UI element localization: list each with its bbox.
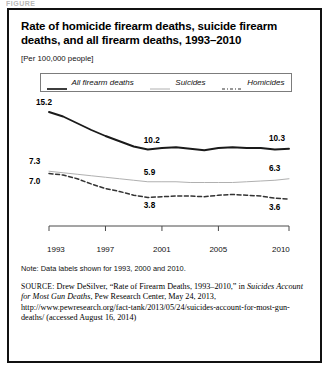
data-label-all-firearm-deaths-2010: 10.3 bbox=[269, 134, 285, 143]
x-tick-label-2005: 2005 bbox=[209, 245, 227, 254]
chart-title: Rate of homicide firearm deaths, suicide… bbox=[21, 19, 310, 47]
legend-item-all-firearm-deaths: All firearm deaths bbox=[47, 78, 134, 87]
chart-legend: All firearm deaths Suicides Homicides bbox=[40, 73, 292, 92]
x-tick-label-1997: 1997 bbox=[96, 245, 114, 254]
figure-frame: Rate of homicide firearm deaths, suicide… bbox=[7, 8, 322, 363]
chart-series-group bbox=[49, 112, 289, 199]
legend-swatch-homicides bbox=[222, 79, 242, 87]
chart-plot-area: 15.210.210.37.35.96.37.03.83.6 bbox=[21, 98, 311, 244]
chart-note: Note: Data labels shown for 1993, 2000 a… bbox=[21, 264, 310, 273]
series-line-homicides bbox=[49, 174, 289, 200]
data-label-all-firearm-deaths-1993: 15.2 bbox=[36, 98, 52, 107]
x-tick-label-2010: 2010 bbox=[272, 245, 290, 254]
series-line-all-firearm-deaths bbox=[49, 112, 289, 150]
legend-label-all-firearm-deaths: All firearm deaths bbox=[72, 78, 134, 87]
data-label-suicides-2010: 6.3 bbox=[269, 164, 280, 173]
data-label-suicides-2000: 5.9 bbox=[144, 168, 155, 177]
chart-source: SOURCE: Drew DeSilver, “Rate of Firearm … bbox=[21, 282, 310, 324]
data-label-homicides-2000: 3.8 bbox=[144, 201, 155, 210]
chart-x-axis bbox=[49, 226, 289, 231]
chart-subtitle: [Per 100,000 people] bbox=[21, 54, 310, 63]
source-prefix: SOURCE: bbox=[21, 282, 54, 291]
legend-item-homicides: Homicides bbox=[222, 78, 284, 87]
series-line-suicides bbox=[49, 171, 289, 182]
legend-item-suicides: Suicides bbox=[150, 78, 205, 87]
legend-swatch-suicides bbox=[150, 79, 170, 87]
figure-content: Rate of homicide firearm deaths, suicide… bbox=[9, 10, 320, 361]
legend-label-suicides: Suicides bbox=[175, 78, 205, 87]
legend-label-homicides: Homicides bbox=[247, 78, 284, 87]
chart-x-axis-labels: 19931997200120052010 bbox=[21, 245, 311, 257]
figure-caption-clipped: FIGURE bbox=[6, 0, 35, 8]
legend-swatch-all-firearm-deaths bbox=[47, 79, 67, 87]
data-label-homicides-1993: 7.0 bbox=[29, 177, 40, 186]
x-tick-label-1993: 1993 bbox=[47, 245, 65, 254]
data-label-all-firearm-deaths-2000: 10.2 bbox=[144, 136, 160, 145]
chart-svg bbox=[21, 98, 311, 244]
data-label-suicides-1993: 7.3 bbox=[29, 157, 40, 166]
x-tick-label-2001: 2001 bbox=[153, 245, 171, 254]
source-part1: Drew DeSilver, “Rate of Firearm Deaths, … bbox=[54, 282, 246, 291]
data-label-homicides-2010: 3.6 bbox=[269, 203, 280, 212]
